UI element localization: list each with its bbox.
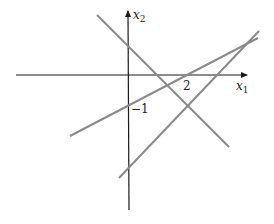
- x-tick-label-2: 2: [183, 79, 191, 93]
- x2-axis-label: x2: [133, 8, 146, 24]
- coordinate-diagram: x2 x1 2 −1: [0, 0, 274, 224]
- descending-line: [97, 15, 229, 147]
- shallow-ascending-line: [70, 38, 258, 136]
- y-tick-label-neg1: −1: [131, 102, 149, 116]
- x1-axis-label: x1: [236, 79, 249, 95]
- diagram-canvas: x2 x1 2 −1: [0, 0, 274, 224]
- x2-axis: [128, 11, 129, 210]
